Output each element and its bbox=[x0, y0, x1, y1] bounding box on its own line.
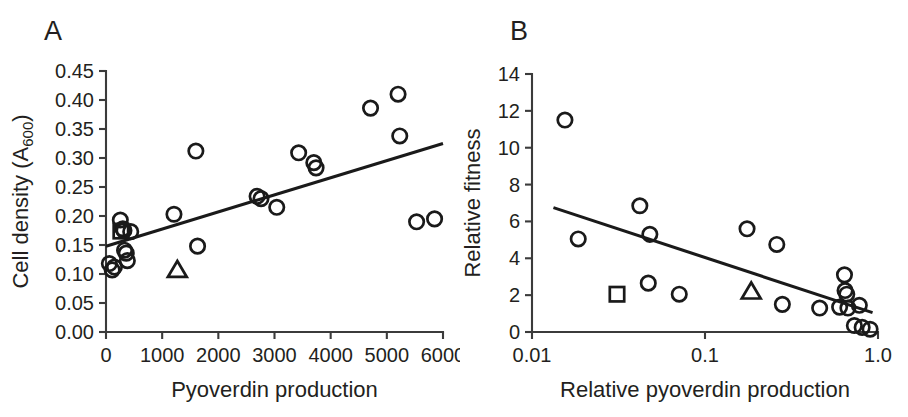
data-point-triangle bbox=[168, 261, 187, 277]
data-point-circle bbox=[558, 113, 572, 127]
x-tick-label: 4000 bbox=[308, 344, 353, 366]
y-tick-label: 0.35 bbox=[55, 118, 94, 140]
data-point-triangle bbox=[742, 282, 761, 298]
data-point-circle bbox=[363, 101, 377, 115]
y-tick-label: 0.00 bbox=[55, 321, 94, 343]
y-tick-label: 14 bbox=[498, 63, 520, 85]
data-point-circle bbox=[167, 207, 181, 221]
y-tick-label: 4 bbox=[509, 247, 520, 269]
data-point-circle bbox=[837, 268, 851, 282]
x-tick-label: 5000 bbox=[365, 344, 410, 366]
data-point-circle bbox=[189, 144, 203, 158]
data-point-circle bbox=[740, 222, 754, 236]
data-point-circle bbox=[391, 87, 405, 101]
data-point-circle bbox=[812, 301, 826, 315]
x-tick-label: 2000 bbox=[196, 344, 241, 366]
data-point-circle bbox=[672, 287, 686, 301]
y-tick-label: 0.40 bbox=[55, 89, 94, 111]
data-point-circle bbox=[270, 200, 284, 214]
x-tick-label: 0 bbox=[100, 344, 111, 366]
x-tick-label: 3000 bbox=[252, 344, 297, 366]
y-tick-label: 0.25 bbox=[55, 176, 94, 198]
panel-b: B 024681012140.010.11.0Relative pyoverdi… bbox=[450, 0, 908, 417]
x-axis-title: Relative pyoverdin production bbox=[560, 377, 850, 402]
figure-container: A 0.000.050.100.150.200.250.300.350.400.… bbox=[0, 0, 908, 417]
x-tick-label: 0.01 bbox=[513, 344, 552, 366]
y-axis-title: Relative fitness bbox=[460, 128, 485, 277]
data-point-square bbox=[610, 287, 624, 301]
y-tick-label: 6 bbox=[509, 210, 520, 232]
data-point-circle bbox=[775, 297, 789, 311]
y-tick-label: 0.20 bbox=[55, 205, 94, 227]
y-tick-label: 0 bbox=[509, 321, 520, 343]
x-tick-label: 0.1 bbox=[691, 344, 719, 366]
data-point-circle bbox=[190, 239, 204, 253]
data-point-circle bbox=[393, 129, 407, 143]
y-axis-title: Cell density (A600) bbox=[8, 114, 36, 288]
regression-line bbox=[553, 208, 872, 313]
y-tick-label: 0.45 bbox=[55, 60, 94, 82]
y-tick-label: 12 bbox=[498, 100, 520, 122]
axis-lines bbox=[532, 74, 878, 332]
data-point-circle bbox=[571, 232, 585, 246]
panel-a: A 0.000.050.100.150.200.250.300.350.400.… bbox=[0, 0, 460, 417]
panel-a-plot: 0.000.050.100.150.200.250.300.350.400.45… bbox=[0, 0, 460, 417]
data-point-circle bbox=[427, 212, 441, 226]
y-tick-label: 10 bbox=[498, 137, 520, 159]
data-point-circle bbox=[641, 276, 655, 290]
data-point-circle bbox=[633, 199, 647, 213]
y-tick-label: 0.05 bbox=[55, 292, 94, 314]
data-point-circle bbox=[409, 215, 423, 229]
y-tick-label: 0.10 bbox=[55, 263, 94, 285]
x-tick-label: 1000 bbox=[140, 344, 185, 366]
y-tick-label: 8 bbox=[509, 174, 520, 196]
y-tick-label: 0.30 bbox=[55, 147, 94, 169]
data-point-circle bbox=[291, 146, 305, 160]
panel-b-plot: 024681012140.010.11.0Relative pyoverdin … bbox=[450, 0, 908, 417]
y-tick-label: 2 bbox=[509, 284, 520, 306]
regression-line bbox=[106, 144, 443, 247]
data-point-circle bbox=[770, 237, 784, 251]
x-tick-label: 1.0 bbox=[864, 344, 892, 366]
y-tick-label: 0.15 bbox=[55, 234, 94, 256]
x-axis-title: Pyoverdin production bbox=[171, 377, 378, 402]
